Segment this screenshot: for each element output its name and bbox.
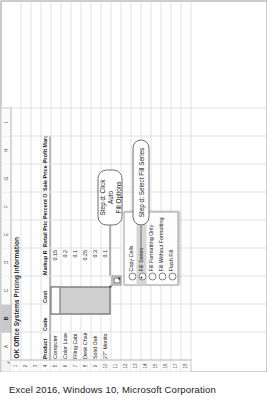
row-header-6[interactable]: 6 xyxy=(60,359,71,371)
header-cell-profit-margin[interactable]: Profit Margin xyxy=(40,137,50,164)
figure-caption: Excel 2016, Windows 10, Microsoft Corpor… xyxy=(9,384,216,395)
callout-leader-line-1 xyxy=(109,225,110,275)
grid-hline xyxy=(130,1,131,360)
select-all-corner[interactable] xyxy=(1,359,11,371)
grid-hline xyxy=(150,1,151,360)
row-header-3[interactable]: 3 xyxy=(30,359,41,371)
column-header-f[interactable]: F xyxy=(1,191,11,220)
callout-auto-fill-options: Step d: Click AutoFill Options xyxy=(97,169,122,225)
cell-markup-8[interactable]: 0.25 xyxy=(80,249,90,276)
cell-product-9[interactable]: Solid Oak xyxy=(90,333,100,360)
column-header-i[interactable]: I xyxy=(1,107,11,136)
callout-select-fill-series-text: Step d: Select Fill Series xyxy=(137,147,145,217)
header-cell-percent-o[interactable]: Percent O xyxy=(40,193,50,220)
active-cell-b5[interactable] xyxy=(50,286,60,314)
callout-select-fill-series: Step d: Select Fill Series xyxy=(132,139,149,225)
callout-auto-fill-options-text: Step d: Click AutoFill Options xyxy=(98,174,122,220)
column-header-e[interactable]: E xyxy=(1,219,11,248)
auto-fill-icon xyxy=(113,277,119,283)
grid-hline xyxy=(180,1,181,360)
worksheet-title-cell[interactable]: OK Office Systems Pricing Information xyxy=(11,209,21,359)
cell-product-6[interactable]: Color Lase xyxy=(60,333,70,360)
menu-item-fill-without-formatting[interactable]: Fill Without Formatting xyxy=(156,212,166,284)
column-header-d[interactable]: D xyxy=(1,247,11,276)
row-header-7[interactable]: 7 xyxy=(70,359,81,371)
header-cell-code[interactable]: Code xyxy=(40,305,50,332)
figure-page: ABCDEFGHI 123456789101112131415161718 OK… xyxy=(0,0,267,411)
row-header-12[interactable]: 12 xyxy=(120,359,131,371)
menu-item-flash-fill[interactable]: Flash Fill xyxy=(166,212,176,284)
auto-fill-options-menu[interactable]: Copy CellsFill SeriesFill Formatting Onl… xyxy=(123,211,178,285)
column-header-b[interactable]: B xyxy=(1,303,11,332)
row-header-17[interactable]: 17 xyxy=(170,359,181,371)
radio-icon[interactable] xyxy=(128,273,136,281)
row-header-15[interactable]: 15 xyxy=(150,359,161,371)
cell-product-7[interactable]: Filing Cabi xyxy=(70,333,80,360)
grid-vline xyxy=(10,135,266,136)
grid-hline xyxy=(190,1,191,360)
row-header-4[interactable]: 4 xyxy=(40,359,51,371)
row-header-16[interactable]: 16 xyxy=(160,359,171,371)
header-cell-markup-r[interactable]: Markup R xyxy=(40,249,50,276)
menu-item-label: Flash Fill xyxy=(168,249,173,271)
row-header-2[interactable]: 2 xyxy=(20,359,31,371)
rotated-screenshot-wrapper: ABCDEFGHI 123456789101112131415161718 OK… xyxy=(0,0,267,372)
radio-icon[interactable] xyxy=(138,273,146,281)
grid-hline xyxy=(30,1,31,360)
menu-item-label: Fill Without Formatting xyxy=(158,217,163,271)
cell-markup-10[interactable]: 0.1 xyxy=(100,249,110,276)
cell-product-5[interactable]: Computer xyxy=(50,333,60,360)
column-header-a[interactable]: A xyxy=(1,331,11,360)
cell-markup-9[interactable]: 0.3 xyxy=(90,249,100,276)
column-header-c[interactable]: C xyxy=(1,275,11,304)
grid-hline xyxy=(160,1,161,360)
callout-leader-line-2 xyxy=(140,225,141,259)
cell-markup-7[interactable]: 0.1 xyxy=(70,249,80,276)
radio-icon[interactable] xyxy=(148,273,156,281)
header-cell-sale-price[interactable]: Sale Price xyxy=(40,165,50,192)
cell-markup-5[interactable]: 0.15 xyxy=(50,249,60,276)
row-header-14[interactable]: 14 xyxy=(140,359,151,371)
row-header-18[interactable]: 18 xyxy=(180,359,191,371)
excel-worksheet[interactable]: ABCDEFGHI 123456789101112131415161718 OK… xyxy=(0,0,267,372)
header-cell-cost[interactable]: Cost xyxy=(40,277,50,304)
radio-icon[interactable] xyxy=(168,273,176,281)
row-header-9[interactable]: 9 xyxy=(90,359,101,371)
row-header-1[interactable]: 1 xyxy=(10,359,21,371)
row-header-10[interactable]: 10 xyxy=(100,359,111,371)
row-header-5[interactable]: 5 xyxy=(50,359,61,371)
grid-vline xyxy=(10,107,266,108)
cell-product-8[interactable]: Desk Chair xyxy=(80,333,90,360)
column-header-g[interactable]: G xyxy=(1,163,11,192)
header-cell-product[interactable]: Product xyxy=(40,333,50,360)
row-header-8[interactable]: 8 xyxy=(80,359,91,371)
row-header-13[interactable]: 13 xyxy=(130,359,141,371)
menu-item-label: Fill Formatting Only xyxy=(148,224,153,271)
cell-product-10[interactable]: 27" Monito xyxy=(100,333,110,360)
radio-icon[interactable] xyxy=(158,273,166,281)
menu-item-label: Copy Cells xyxy=(128,245,133,271)
column-header-h[interactable]: H xyxy=(1,135,11,164)
cell-markup-6[interactable]: 0.2 xyxy=(60,249,70,276)
row-header-11[interactable]: 11 xyxy=(110,359,121,371)
grid-hline xyxy=(170,1,171,360)
auto-fill-options-button[interactable] xyxy=(111,275,121,285)
header-cell-retail-pric[interactable]: Retail Pric xyxy=(40,221,50,248)
